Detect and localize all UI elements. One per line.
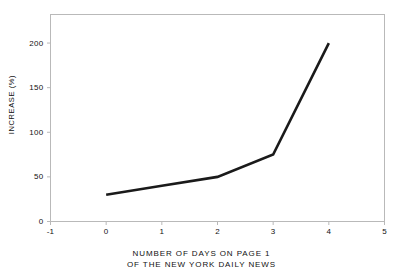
y-tick-label: 100 (18, 128, 44, 137)
x-tick-label: -1 (41, 227, 61, 236)
y-tick-label: 50 (18, 172, 44, 181)
y-tick-marks (47, 43, 51, 221)
x-axis-title: NUMBER OF DAYS ON PAGE 1 OF THE NEW YORK… (0, 248, 403, 270)
plot-frame (51, 15, 385, 222)
y-tick-label: 0 (18, 217, 44, 226)
x-axis-title-line-1: NUMBER OF DAYS ON PAGE 1 (0, 248, 403, 259)
y-tick-label: 150 (18, 83, 44, 92)
chart-container: 050100150200 -1012345 INCREASE (%) NUMBE… (0, 0, 403, 276)
x-axis-title-line-2: OF THE NEW YORK DAILY NEWS (0, 259, 403, 270)
x-tick-label: 4 (319, 227, 339, 236)
data-series-line (106, 43, 329, 195)
x-tick-label: 1 (152, 227, 172, 236)
x-tick-marks (51, 222, 385, 226)
x-tick-label: 0 (96, 227, 116, 236)
y-tick-label: 200 (18, 39, 44, 48)
x-tick-label: 3 (263, 227, 283, 236)
y-axis-title: INCREASE (%) (7, 70, 16, 140)
x-tick-label: 5 (375, 227, 395, 236)
x-tick-label: 2 (208, 227, 228, 236)
